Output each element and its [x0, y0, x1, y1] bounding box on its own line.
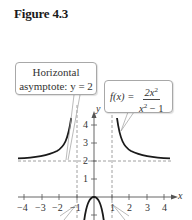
x-axis-arrow-icon — [171, 195, 178, 200]
callout-line2: asymptote: y = 2 — [16, 79, 96, 93]
callout-horizontal-asymptote: Horizontal asymptote: y = 2 — [15, 62, 97, 95]
callout-tail-function — [121, 112, 134, 131]
callout-function: f(x) = 2x2 x2 − 1 — [104, 80, 173, 113]
function-lhs: f(x) = — [110, 91, 134, 102]
fraction-denominator: x2 − 1 — [137, 100, 166, 115]
x-tick-label: −1 — [70, 203, 81, 213]
x-tick-label: 4 — [162, 203, 167, 213]
x-tick-label: 2 — [127, 203, 132, 213]
x-tick-label: −4 — [17, 203, 28, 213]
curve-left-branch — [18, 118, 71, 158]
x-tick-label: 3 — [145, 203, 150, 213]
y-tick-label: 1 — [83, 174, 88, 184]
x-tick-label: −2 — [52, 203, 63, 213]
x-axis-label: x — [178, 191, 182, 201]
y-axis-label: y — [96, 104, 100, 114]
fraction-numerator: 2x2 — [143, 84, 160, 100]
callout-line1: Horizontal — [16, 65, 96, 79]
function-fraction: 2x2 x2 − 1 — [137, 84, 166, 115]
y-tick-label: 3 — [83, 138, 88, 148]
callout-tail-horizontal — [66, 95, 80, 160]
x-tick-label: −3 — [35, 203, 46, 213]
y-tick-label: 4 — [83, 120, 88, 130]
curve-right-branch — [117, 118, 170, 158]
y-tick-label: 2 — [83, 156, 88, 166]
x-tick-label: 1 — [110, 203, 115, 213]
